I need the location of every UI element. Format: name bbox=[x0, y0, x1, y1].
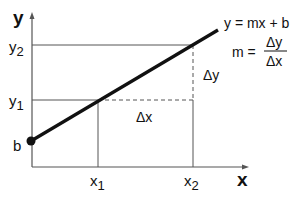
x1-label: x1 bbox=[90, 172, 105, 193]
slope-denominator: Δx bbox=[266, 53, 282, 69]
x-axis-label: x bbox=[237, 169, 248, 190]
y-axis-arrow-icon bbox=[30, 12, 35, 19]
slope-diagram: y x y2 y1 b x1 x2 Δx Δy y = mx + b m = Δ… bbox=[0, 0, 298, 209]
slope-formula: m = Δy Δx bbox=[232, 34, 287, 69]
slope-numerator: Δy bbox=[266, 34, 282, 50]
y1-label: y1 bbox=[9, 92, 24, 113]
x2-label: x2 bbox=[184, 172, 199, 193]
slope-lhs: m = bbox=[232, 44, 256, 60]
intercept-dot bbox=[27, 137, 36, 146]
delta-y-label: Δy bbox=[203, 67, 219, 83]
intercept-label: b bbox=[13, 137, 21, 154]
function-line bbox=[31, 30, 218, 141]
y2-label: y2 bbox=[9, 38, 24, 59]
equation-label: y = mx + b bbox=[224, 15, 290, 31]
axes bbox=[30, 12, 250, 170]
delta-x-label: Δx bbox=[136, 109, 152, 125]
y-axis-label: y bbox=[13, 7, 24, 28]
guide-lines bbox=[32, 45, 193, 167]
